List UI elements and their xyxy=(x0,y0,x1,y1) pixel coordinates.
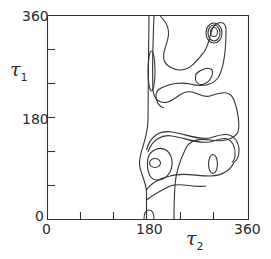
y-axis-title-symbol: τ xyxy=(10,58,21,80)
y-tick-label-180: 180 xyxy=(22,112,49,126)
y-axis-title-subscript: 1 xyxy=(21,71,28,84)
x-tick-label-0: 0 xyxy=(42,222,51,236)
contour-closed-upper-left xyxy=(148,51,155,91)
y-tick-label-360: 360 xyxy=(22,9,49,23)
x-axis-title-symbol: τ xyxy=(186,227,197,249)
x-axis-title-subscript: 2 xyxy=(197,240,204,253)
contour-closed-middle-right xyxy=(195,68,212,84)
x-tick-label-180: 180 xyxy=(136,222,163,236)
y-axis-title: τ1 xyxy=(10,60,28,83)
contour-lower-band-outer xyxy=(147,132,240,162)
contour-lower-left-inner xyxy=(150,159,161,168)
contour-lower-sweep-2 xyxy=(147,185,207,200)
contour-bottom-small xyxy=(144,210,154,220)
contour-figure: 360 180 0 0 180 360 τ1 τ2 xyxy=(0,0,271,259)
contour-lower-right xyxy=(209,155,218,174)
x-tick-label-360: 360 xyxy=(234,222,261,236)
x-axis-title: τ2 xyxy=(186,229,204,252)
